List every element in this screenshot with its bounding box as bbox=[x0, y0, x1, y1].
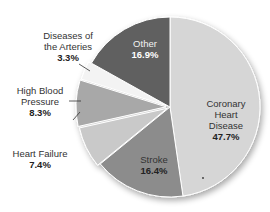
label-text: High Blood bbox=[17, 85, 63, 96]
label-other: Other 16.9% bbox=[120, 38, 170, 60]
label-high-blood-pressure: High Blood Pressure 8.3% bbox=[10, 85, 70, 118]
label-text: Heart bbox=[214, 109, 237, 120]
label-text: Disease bbox=[209, 120, 243, 131]
label-value: 47.7% bbox=[186, 131, 266, 142]
label-heart-failure: Heart Failure 7.4% bbox=[6, 148, 74, 170]
label-coronary-heart-disease: Coronary Heart Disease 47.7% bbox=[186, 98, 266, 142]
label-stroke: Stroke 16.4% bbox=[129, 154, 179, 176]
label-text: Diseases of bbox=[43, 30, 93, 41]
label-text: Other bbox=[133, 38, 157, 49]
label-text: Stroke bbox=[140, 154, 167, 165]
label-value: 16.4% bbox=[129, 165, 179, 176]
label-value: 7.4% bbox=[6, 159, 74, 170]
label-diseases-of-arteries: Diseases of the Arteries 3.3% bbox=[38, 30, 98, 63]
label-value: 16.9% bbox=[120, 49, 170, 60]
label-text: Pressure bbox=[21, 96, 59, 107]
label-text: the Arteries bbox=[44, 41, 92, 52]
label-text: Coronary bbox=[206, 98, 245, 109]
label-text: Heart Failure bbox=[13, 148, 68, 159]
dot-mark bbox=[202, 177, 204, 179]
label-value: 8.3% bbox=[10, 107, 70, 118]
label-value: 3.3% bbox=[38, 52, 98, 63]
